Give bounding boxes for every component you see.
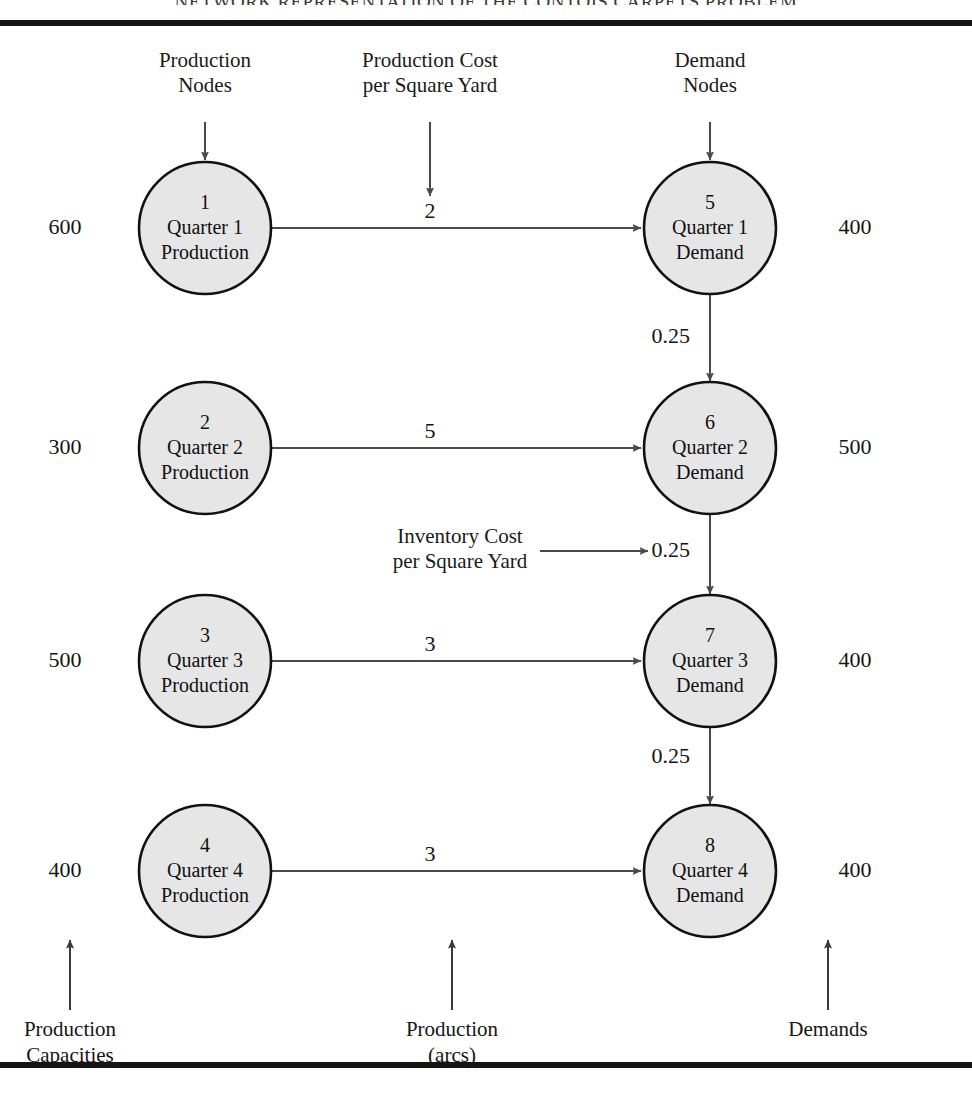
capacity-value-2: 300 [30,434,100,460]
label-production-nodes: Production Nodes [125,48,285,98]
node-circle-8 [644,805,776,937]
node-circle-7 [644,595,776,727]
capacity-value-4: 400 [30,857,100,883]
bottom-pointer-arrows [70,940,828,1010]
arc-cost-2-6: 5 [400,418,460,444]
label-demand-nodes: Demand Nodes [630,48,790,98]
demand-value-6: 500 [820,434,890,460]
arc-cost-6-7: 0.25 [620,537,690,563]
label-production-arcs: Production (arcs) [372,1016,532,1068]
arc-cost-7-8: 0.25 [620,743,690,769]
label-production-cost: Production Cost per Square Yard [335,48,525,98]
node-circle-5 [644,162,776,294]
demand-value-7: 400 [820,647,890,673]
capacity-value-3: 500 [30,647,100,673]
label-production-capacities: Production Capacities [0,1016,150,1068]
top-pointer-arrows [205,122,710,196]
arc-cost-1-5: 2 [400,198,460,224]
node-circle-6 [644,382,776,514]
node-circle-3 [139,595,271,727]
arc-cost-4-8: 3 [400,841,460,867]
label-demands: Demands [748,1016,908,1042]
demand-value-5: 400 [820,214,890,240]
node-circle-4 [139,805,271,937]
capacity-value-1: 600 [30,214,100,240]
node-circle-2 [139,382,271,514]
label-inventory-cost: Inventory Cost per Square Yard [380,524,540,574]
arc-cost-3-7: 3 [400,631,460,657]
node-circle-1 [139,162,271,294]
arc-cost-5-6: 0.25 [620,323,690,349]
demand-value-8: 400 [820,857,890,883]
figure-root: NETWORK REPRESENTATION OF THE CONTOIS CA… [0,0,972,1109]
